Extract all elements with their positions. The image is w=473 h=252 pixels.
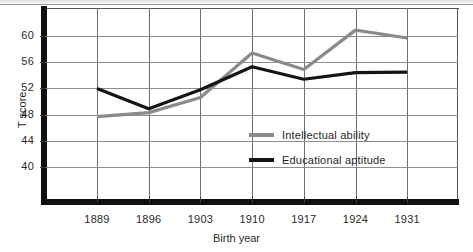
legend-label: Intellectual ability [282, 129, 370, 141]
scan-artifact-rule [0, 4, 473, 5]
x-tick-mark [149, 197, 150, 203]
x-tick-mark [252, 197, 253, 203]
x-tick-label: 1917 [280, 213, 328, 225]
y-tick-label: 56 [8, 55, 34, 67]
x-tick-label: 1896 [125, 213, 173, 225]
y-tick-mark [40, 167, 46, 168]
legend-swatch-icon [249, 133, 274, 137]
legend-item: Intellectual ability [249, 129, 370, 141]
x-tick-label: 1924 [332, 213, 380, 225]
x-tick-mark [97, 197, 98, 203]
y-tick-label: 44 [8, 134, 34, 146]
legend-label: Educational aptitude [282, 154, 386, 166]
y-tick-mark [40, 141, 46, 142]
x-tick-mark [200, 197, 201, 203]
y-tick-mark [40, 36, 46, 37]
x-tick-label: 1903 [176, 213, 224, 225]
y-tick-mark [40, 62, 46, 63]
y-tick-label: 48 [8, 108, 34, 120]
x-tick-mark [407, 197, 408, 203]
x-tick-mark [356, 197, 357, 203]
y-tick-mark [40, 115, 46, 116]
series-lines [46, 8, 458, 203]
legend-swatch-icon [249, 158, 274, 162]
x-tick-label: 1889 [73, 213, 121, 225]
x-tick-label: 1910 [228, 213, 276, 225]
y-tick-label: 40 [8, 160, 34, 172]
series-line-educational-aptitude [97, 67, 407, 109]
y-tick-label: 52 [8, 81, 34, 93]
chart-figure: T score Birth year 404448525660188918961… [0, 0, 473, 252]
legend-item: Educational aptitude [249, 154, 386, 166]
x-tick-mark [304, 197, 305, 203]
plot-area [46, 8, 458, 203]
y-tick-mark [40, 88, 46, 89]
y-tick-label: 60 [8, 29, 34, 41]
x-axis-title: Birth year [0, 232, 473, 244]
x-tick-label: 1931 [383, 213, 431, 225]
